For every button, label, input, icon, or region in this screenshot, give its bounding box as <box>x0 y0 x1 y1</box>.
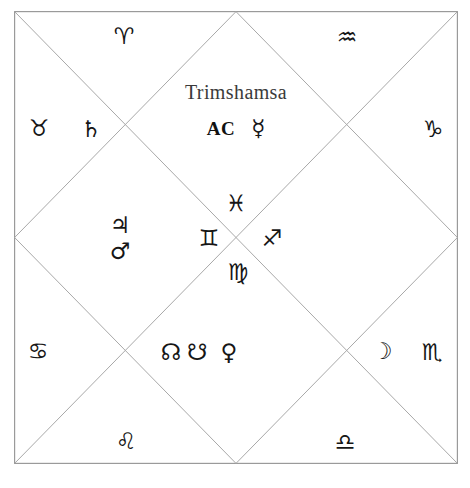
taurus-icon: ♉ <box>29 117 50 140</box>
chart-title: Trimshamsa <box>185 81 287 104</box>
venus-icon: ♀ <box>221 341 238 364</box>
house-11-capricorn[interactable]: ♑ <box>423 118 444 141</box>
virgo-icon: ♍ <box>228 261 249 284</box>
center-gemini[interactable]: ♊ <box>199 227 220 250</box>
mercury-icon: ☿ <box>251 117 265 140</box>
capricorn-icon: ♑ <box>423 118 444 141</box>
rahu-icon: ☊ <box>161 341 181 364</box>
jupiter-icon: ♃ <box>110 214 131 237</box>
chart-frame <box>14 11 458 464</box>
cancer-icon: ♋ <box>28 340 49 363</box>
house-7-planets[interactable]: ☊ ☋ ♀ <box>161 341 238 364</box>
chart-grid-lines <box>14 11 458 464</box>
center-pisces[interactable]: ♓ <box>226 192 247 215</box>
center-sagittarius[interactable]: ♐ <box>262 227 283 250</box>
pisces-icon: ♓ <box>226 192 247 215</box>
house-6-leo[interactable]: ♌ <box>116 430 137 453</box>
saturn-icon: ♄ <box>81 118 102 141</box>
house-3-taurus[interactable]: ♉ <box>29 117 50 140</box>
trimshamsa-chart: Trimshamsa AC ☿ ♈ ♒ ♉ ♄ ♑ ♃ ♂ ♋ ☽ ♏ <box>0 0 470 488</box>
ketu-icon: ☋ <box>187 341 207 364</box>
page-artifact <box>378 470 464 486</box>
leo-icon: ♌ <box>116 430 137 453</box>
house-8-libra[interactable]: ♎ <box>335 431 356 454</box>
libra-icon: ♎ <box>335 431 356 454</box>
house-5-cancer[interactable]: ♋ <box>28 340 49 363</box>
house-9-moon[interactable]: ☽ <box>372 340 393 363</box>
aries-icon: ♈ <box>114 25 135 48</box>
mars-icon: ♂ <box>110 240 131 263</box>
ascendant-row: AC ☿ <box>207 117 266 140</box>
house-3-saturn[interactable]: ♄ <box>81 118 102 141</box>
ascendant-label: AC <box>207 117 235 139</box>
moon-icon: ☽ <box>372 340 393 363</box>
house-2-aries[interactable]: ♈ <box>114 25 135 48</box>
gemini-icon: ♊ <box>199 227 220 250</box>
sagittarius-icon: ♐ <box>262 227 283 250</box>
house-12-aquarius[interactable]: ♒ <box>337 26 358 49</box>
scorpio-icon: ♏ <box>422 341 443 364</box>
aquarius-icon: ♒ <box>337 26 358 49</box>
center-virgo[interactable]: ♍ <box>228 261 249 284</box>
house-9-scorpio[interactable]: ♏ <box>422 341 443 364</box>
house-4-planets[interactable]: ♃ ♂ <box>110 214 131 263</box>
